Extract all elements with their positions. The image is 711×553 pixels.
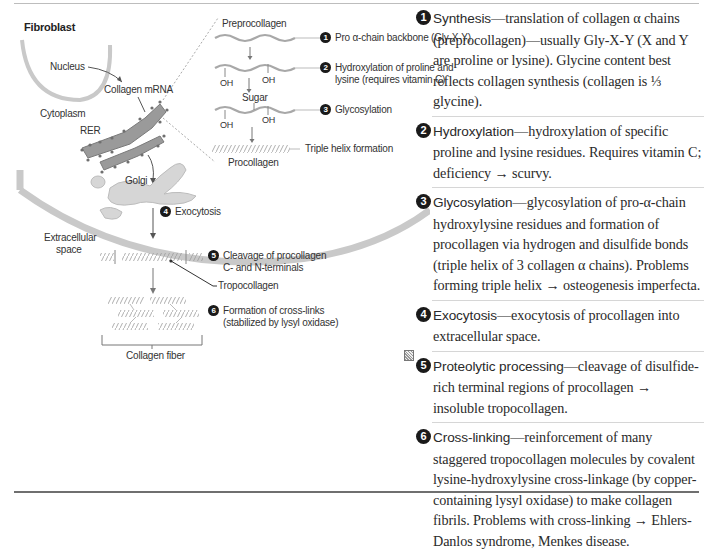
preprocollagen-label: Preprocollagen [222, 18, 286, 30]
step-number-badge: 3 [320, 104, 331, 115]
diagram-step-6: 6 Formation of cross-links(stabilized by… [208, 305, 338, 329]
step-number-badge: 1 [320, 32, 331, 43]
step-descriptions: 1 Synthesis—translation of collagen α ch… [432, 8, 704, 553]
bottom-rule [14, 491, 699, 493]
triple-helix-label: Triple helix formation [305, 143, 393, 155]
step-number-badge: 6 [208, 305, 219, 316]
chain-3 [215, 107, 295, 113]
description-glycosylation: 3 Glycosylation—glycosylation of pro-α-c… [432, 192, 704, 301]
oh-label: OH [220, 77, 233, 89]
tropocollagen-label: Tropocollagen [218, 280, 278, 292]
description-hydroxylation: 2 Hydroxylation—hydroxylation of specifi… [432, 121, 704, 189]
chain-2 [215, 65, 295, 71]
description-cross-linking: 6 Cross-linking—reinforcement of many st… [432, 427, 704, 553]
diagram-step-3: 3 Glycosylation [320, 104, 392, 116]
nucleus-label: Nucleus [50, 61, 85, 73]
step-number-badge: 1 [416, 10, 431, 25]
oh-label: OH [220, 119, 233, 131]
extracellular-label-2: space [56, 244, 82, 256]
sugar-label: Sugar [242, 92, 268, 104]
description-synthesis: 1 Synthesis—translation of collagen α ch… [432, 8, 704, 117]
step-number-badge: 5 [416, 358, 431, 373]
step-number-badge: 6 [416, 429, 431, 444]
description-exocytosis: 4 Exocytosis—exocytosis of procollagen i… [432, 305, 704, 352]
rer-label: RER [80, 125, 101, 137]
step-number-badge: 5 [208, 250, 219, 261]
triple-helix-shape [212, 145, 290, 153]
step-number-badge: 4 [416, 307, 431, 322]
chain-1 [215, 35, 295, 41]
extracellular-label-1: Extracellular [44, 232, 96, 244]
description-proteolytic-processing: 5 Proteolytic processing—cleavage of dis… [432, 356, 704, 424]
step-number-badge: 2 [320, 62, 331, 73]
collagen-fiber-label: Collagen fiber [126, 350, 185, 362]
diagram-step-4: 4 Exocytosis [160, 206, 221, 218]
fibroblast-label: Fibroblast [24, 21, 75, 33]
step-number-badge: 3 [416, 194, 431, 209]
oh-label: OH [262, 114, 275, 126]
step-number-badge: 4 [160, 206, 171, 217]
image-icon[interactable] [404, 350, 414, 361]
collagen-fiber-illustration [108, 297, 199, 330]
diagram-step-5: 5 Cleavage of procollagenC- and N-termin… [208, 250, 326, 274]
procollagen-label: Procollagen [228, 157, 279, 169]
step-number-badge: 2 [416, 123, 431, 138]
collagen-mrna-label: Collagen mRNA [104, 84, 173, 96]
golgi-label: Golgi [125, 175, 147, 187]
rer-organelle [80, 100, 168, 173]
oh-label: OH [262, 74, 275, 86]
fiber-bracket [102, 335, 202, 349]
cytoplasm-label: Cytoplasm [40, 108, 85, 120]
